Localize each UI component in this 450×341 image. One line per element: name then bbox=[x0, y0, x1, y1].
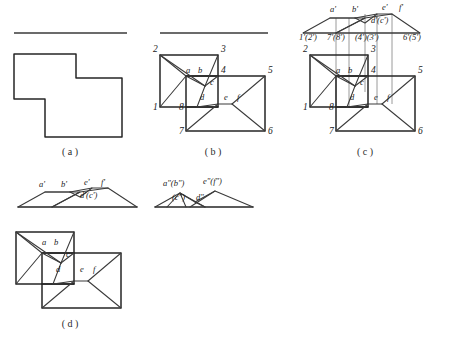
panel-a: ( a ) bbox=[14, 33, 127, 158]
panel-b-vertex-label-4: 4 bbox=[221, 65, 226, 75]
panel-d-side-labels: a"(b")e"(f")(c")d" bbox=[163, 176, 222, 202]
panel-d-front-label-b: b' bbox=[61, 179, 67, 189]
panel-c-point-label-e: e bbox=[374, 92, 378, 102]
panel-c-vertex-label-3: 3 bbox=[370, 44, 376, 54]
panel-c-front-label-a: a' bbox=[330, 4, 336, 14]
panel-d-side-label-c: (c") bbox=[172, 192, 185, 202]
figure-root: ( a ) ( b ) bbox=[0, 0, 450, 341]
panel-b-vertex-label-6: 6 bbox=[268, 126, 273, 136]
panel-b-letter-labels: abcdef bbox=[186, 65, 241, 102]
panel-c-vertex-label-7: 7 bbox=[329, 126, 335, 136]
panel-b-vertex-label-2: 2 bbox=[153, 44, 158, 54]
panel-b-vertex-label-5: 5 bbox=[268, 65, 273, 75]
panel-c-vertex-label-2: 2 bbox=[303, 44, 308, 54]
panel-b-point-label-c: c bbox=[210, 77, 214, 87]
panel-c-vertex-label-5: 5 bbox=[418, 65, 423, 75]
panel-d-front-label-f: f' bbox=[101, 177, 105, 187]
panel-d-point-label-f: f bbox=[93, 264, 97, 274]
panel-d: ( d ) bbox=[16, 188, 253, 330]
panel-b-vertex-label-7: 7 bbox=[179, 126, 185, 136]
panel-d-front-label-a: a' bbox=[39, 179, 45, 189]
panel-c-point-label-c: c bbox=[360, 77, 364, 87]
panel-c-point-label-b: b bbox=[348, 65, 352, 75]
panel-d-front-view bbox=[18, 188, 137, 207]
panel-b-point-label-b: b bbox=[198, 65, 202, 75]
panel-b-caption: ( b ) bbox=[205, 146, 222, 158]
panel-b-diag-7e bbox=[186, 104, 218, 131]
panel-d-side-view bbox=[155, 191, 253, 207]
panel-d-front-label-dc: d'(c') bbox=[80, 190, 97, 200]
panel-a-l-shape-outline bbox=[14, 54, 122, 137]
panel-c-axis-label-78: 7'(8') bbox=[327, 32, 345, 42]
panel-c-front-label-e: e' bbox=[382, 2, 388, 12]
panel-d-caption: ( d ) bbox=[62, 318, 79, 330]
panel-b-vertex-label-3: 3 bbox=[220, 44, 226, 54]
panel-c-vertex-label-4: 4 bbox=[371, 65, 376, 75]
panel-c-axis-label-43: (4')(3') bbox=[355, 32, 379, 42]
panel-c-axis-label-12: 1'(2') bbox=[299, 32, 317, 42]
panel-c-axis-label-65: 6'(5') bbox=[403, 32, 421, 42]
panel-b: ( b ) bbox=[160, 33, 268, 158]
panel-b-diag-6f bbox=[232, 104, 265, 131]
panel-c-point-label-d: d bbox=[350, 92, 355, 102]
panel-c-front-label-b: b' bbox=[352, 4, 358, 14]
panel-b-point-label-d: d bbox=[200, 92, 205, 102]
panel-d-side-label-ab: a"(b") bbox=[163, 178, 184, 188]
panel-d-point-label-c: c bbox=[66, 249, 70, 259]
panel-a-caption: ( a ) bbox=[62, 146, 78, 158]
panel-c-letter-labels: abcdef bbox=[336, 65, 391, 102]
panel-c-vertex-label-6: 6 bbox=[418, 126, 423, 136]
panel-d-diag-1a bbox=[16, 253, 42, 284]
panel-c-front-label-dc: d'(c') bbox=[371, 15, 388, 25]
panel-c-vertex-label-8: 8 bbox=[329, 102, 334, 112]
panel-d-side-label-d: d" bbox=[196, 192, 204, 202]
panel-c-front-label-f: f' bbox=[399, 2, 403, 12]
technical-drawing-svg: ( a ) ( b ) bbox=[0, 0, 450, 341]
panel-d-front-label-e: e' bbox=[84, 177, 90, 187]
panel-d-front-left-slope bbox=[18, 192, 80, 207]
panel-d-diag-7e bbox=[42, 281, 74, 308]
panel-d-point-label-b: b bbox=[54, 237, 58, 247]
panel-b-vertex-label-1: 1 bbox=[153, 102, 158, 112]
panel-b-vertex-label-8: 8 bbox=[179, 102, 184, 112]
panel-c-diag-6f bbox=[382, 104, 415, 131]
panel-d-point-label-e: e bbox=[80, 264, 84, 274]
panel-b-point-label-a: a bbox=[186, 65, 190, 75]
panel-d-diag-6f bbox=[88, 281, 121, 308]
panel-c-vertex-label-1: 1 bbox=[303, 102, 308, 112]
panel-d-top-view bbox=[16, 232, 121, 308]
panel-c-caption: ( c ) bbox=[357, 146, 373, 158]
panel-d-point-label-a: a bbox=[42, 237, 46, 247]
panel-c-front-left-slope bbox=[303, 18, 365, 33]
panel-b-point-label-e: e bbox=[224, 92, 228, 102]
panel-c-point-label-a: a bbox=[336, 65, 340, 75]
panel-d-side-label-ef: e"(f") bbox=[203, 176, 222, 186]
panel-c-diag-7e bbox=[336, 104, 368, 131]
